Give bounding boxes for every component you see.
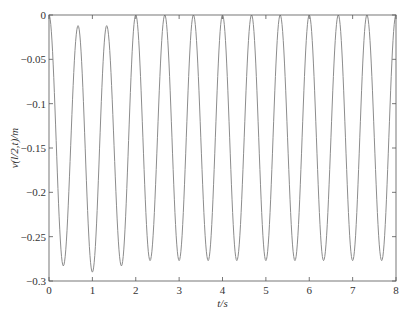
x-tick-label: 5 <box>263 284 269 296</box>
y-tick-label: −0.1 <box>26 98 46 110</box>
axes-frame <box>49 15 396 281</box>
x-tick-label: 6 <box>307 284 313 296</box>
line-chart: 012345678 0−0.05−0.1−0.15−0.2−0.25−0.3 t… <box>0 0 409 313</box>
y-tick-label: −0.25 <box>21 231 47 243</box>
x-tick-label: 8 <box>393 284 399 296</box>
y-axis-label: v(l/2,t)/m <box>8 128 21 169</box>
x-tick-label: 1 <box>90 284 96 296</box>
y-tick-label: −0.2 <box>26 186 46 198</box>
data-line <box>49 15 396 272</box>
x-tick-label: 3 <box>176 284 182 296</box>
x-tick-label: 7 <box>350 284 356 296</box>
y-tick-label: −0.15 <box>21 142 47 154</box>
y-axis: 0−0.05−0.1−0.15−0.2−0.25−0.3 <box>21 9 396 287</box>
x-tick-label: 0 <box>46 284 52 296</box>
x-tick-label: 2 <box>133 284 139 296</box>
y-tick-label: 0 <box>41 9 47 21</box>
x-axis-label: t/s <box>217 297 227 309</box>
y-tick-label: −0.3 <box>26 275 46 287</box>
x-tick-label: 4 <box>220 284 226 296</box>
y-tick-label: −0.05 <box>21 53 47 65</box>
